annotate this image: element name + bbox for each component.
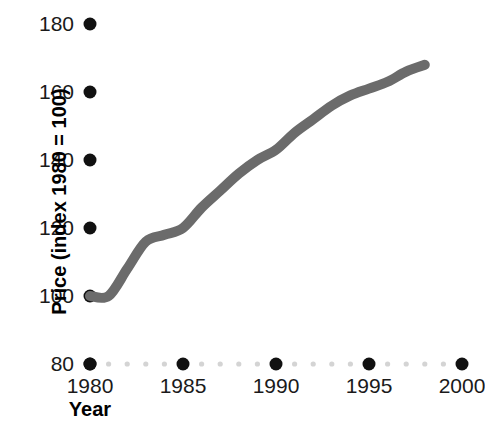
y-axis-tick-label: 80 — [0, 352, 74, 376]
y-axis-major-tick-dot — [84, 154, 97, 167]
y-axis-major-tick-dot — [84, 86, 97, 99]
x-axis-minor-tick-dot — [236, 361, 241, 366]
x-axis-major-tick-dot — [456, 358, 469, 371]
x-axis-tick-label: 1995 — [346, 374, 393, 398]
x-axis-tick-label: 1990 — [253, 374, 300, 398]
y-axis-tick-label: 180 — [0, 12, 74, 36]
x-axis-major-tick-dot — [363, 358, 376, 371]
x-axis-minor-tick-dot — [441, 361, 446, 366]
y-axis-major-tick-dots — [84, 18, 97, 371]
x-axis-minor-tick-dot — [106, 361, 111, 366]
x-axis-minor-tick-dot — [404, 361, 409, 366]
x-axis-minor-tick-dot — [125, 361, 130, 366]
x-axis-major-tick-dots — [84, 358, 469, 371]
x-axis-tick-label: 1985 — [160, 374, 207, 398]
x-axis-minor-tick-dot — [199, 361, 204, 366]
x-axis-tick-label: 1980 — [67, 374, 114, 398]
y-axis-major-tick-dot — [84, 358, 97, 371]
price-index-line — [90, 65, 425, 298]
x-axis-major-tick-dot — [270, 358, 283, 371]
x-axis-minor-tick-dot — [143, 361, 148, 366]
x-axis-title: Year — [69, 398, 111, 421]
x-axis-minor-tick-dot — [162, 361, 167, 366]
x-axis-minor-tick-dot — [311, 361, 316, 366]
x-axis-minor-tick-dot — [292, 361, 297, 366]
y-axis-major-tick-dot — [84, 222, 97, 235]
x-axis-major-tick-dot — [177, 358, 190, 371]
x-axis-minor-tick-dot — [255, 361, 260, 366]
x-axis-minor-tick-dot — [385, 361, 390, 366]
y-axis-title: Price (index 1980 = 100) — [48, 57, 71, 347]
x-axis-minor-tick-dot — [348, 361, 353, 366]
x-axis-minor-tick-dot — [329, 361, 334, 366]
y-axis-major-tick-dot — [84, 18, 97, 31]
x-axis-tick-label: 2000 — [439, 374, 485, 398]
x-axis-minor-tick-dot — [422, 361, 427, 366]
x-axis-minor-tick-dot — [218, 361, 223, 366]
